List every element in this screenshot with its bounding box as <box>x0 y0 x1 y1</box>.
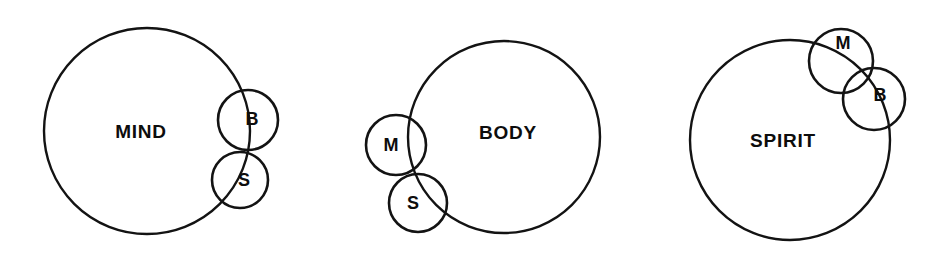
spirit-major-label: SPIRIT <box>750 130 816 151</box>
venn-diagram-canvas: MIND B S BODY M S SPIRIT M B <box>0 0 952 257</box>
body-group: BODY M S <box>366 41 600 233</box>
mind-group: MIND B S <box>44 28 278 234</box>
spirit-minor-label-b: B <box>874 85 887 105</box>
body-minor-label-s: S <box>407 193 419 213</box>
spirit-minor-label-m: M <box>836 33 851 53</box>
mind-major-label: MIND <box>115 121 167 142</box>
venn-diagram-root: MIND B S BODY M S SPIRIT M B <box>0 0 952 257</box>
body-minor-label-m: M <box>384 135 399 155</box>
body-major-label: BODY <box>479 122 537 143</box>
mind-minor-label-b: B <box>246 109 259 129</box>
mind-minor-label-s: S <box>238 170 250 190</box>
spirit-group: SPIRIT M B <box>690 29 905 240</box>
